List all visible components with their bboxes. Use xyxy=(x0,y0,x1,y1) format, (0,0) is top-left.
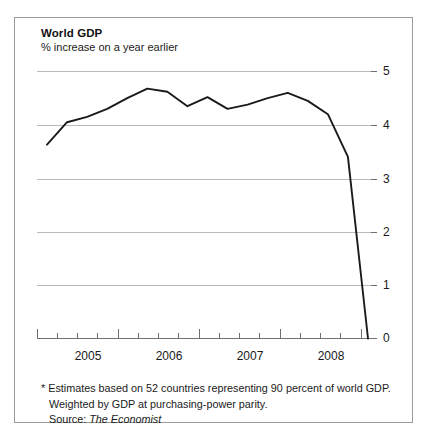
y-axis-tick-stubs xyxy=(371,72,377,339)
x-tick-label-2008: 2008 xyxy=(301,349,361,363)
y-tick-label-5: 5 xyxy=(383,64,403,78)
gridlines xyxy=(37,72,371,286)
x-tick-label-2005: 2005 xyxy=(58,349,118,363)
source-name: The Economist xyxy=(89,413,161,425)
y-tick-label-4: 4 xyxy=(383,118,403,132)
footnote-weighting: Weighted by GDP at purchasing-power pari… xyxy=(41,397,401,413)
chart-figure-panel: World GDP % increase on a year earlier xyxy=(14,17,413,423)
chart-footnotes: * Estimates based on 52 countries repres… xyxy=(41,381,401,428)
source-label: Source: xyxy=(49,413,86,425)
footnote-source: Source: The Economist xyxy=(41,412,401,428)
chart-plot-area xyxy=(15,18,414,424)
x-axis-ticks xyxy=(38,329,362,339)
world-gdp-line-series xyxy=(47,89,368,339)
y-tick-label-1: 1 xyxy=(383,278,403,292)
y-tick-label-3: 3 xyxy=(383,172,403,186)
footnote-estimates: * Estimates based on 52 countries repres… xyxy=(41,381,401,397)
x-tick-label-2006: 2006 xyxy=(139,349,199,363)
x-tick-label-2007: 2007 xyxy=(220,349,280,363)
y-tick-label-0: 0 xyxy=(383,331,403,345)
y-tick-label-2: 2 xyxy=(383,225,403,239)
